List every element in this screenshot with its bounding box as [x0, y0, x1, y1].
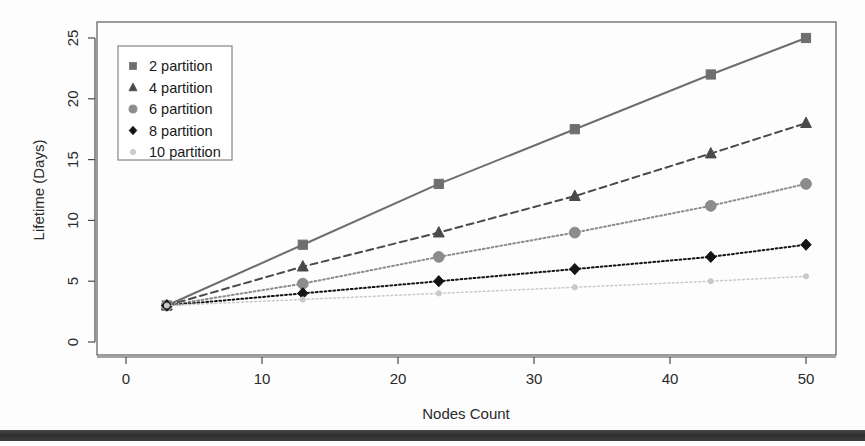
- x-tick-label: 10: [254, 370, 271, 387]
- data-marker-dot: [572, 285, 577, 290]
- x-tick-label: 30: [526, 370, 543, 387]
- legend-marker-dot: [130, 149, 135, 154]
- y-tick-label: 20: [64, 90, 81, 107]
- y-axis-title: Lifetime (Days): [30, 140, 47, 241]
- legend-marker-square: [130, 63, 137, 70]
- x-tick-label: 40: [662, 370, 679, 387]
- y-tick-label: 0: [64, 338, 81, 346]
- lifetime-vs-nodes-chart: 01020304050 0510152025 Nodes Count Lifet…: [0, 0, 865, 446]
- y-tick-label: 25: [64, 30, 81, 47]
- x-tick-label: 50: [798, 370, 815, 387]
- x-tick-label: 20: [390, 370, 407, 387]
- data-marker-square: [570, 125, 579, 134]
- chart-legend[interactable]: 2 partition4 partition6 partition8 parti…: [118, 46, 232, 160]
- data-marker-square: [801, 33, 810, 42]
- legend-item-label: 4 partition: [149, 80, 213, 96]
- data-marker-square: [706, 70, 715, 79]
- y-tick-label: 15: [64, 151, 81, 168]
- data-marker-circle: [705, 200, 716, 211]
- data-marker-square: [298, 240, 307, 249]
- legend-item-label: 10 partition: [149, 144, 221, 160]
- legend-item-label: 8 partition: [149, 123, 213, 139]
- y-tick-label: 5: [64, 277, 81, 285]
- data-marker-circle: [433, 251, 444, 262]
- data-marker-dot: [436, 291, 441, 296]
- y-tick-label: 10: [64, 212, 81, 229]
- legend-item-label: 2 partition: [149, 58, 213, 74]
- scan-artifact-bar: [0, 430, 865, 441]
- data-marker-dot: [803, 274, 808, 279]
- x-tick-label: 0: [122, 370, 130, 387]
- data-marker-dot: [708, 279, 713, 284]
- data-marker-dot: [300, 297, 305, 302]
- data-marker-circle: [801, 179, 812, 190]
- data-marker-circle: [569, 227, 580, 238]
- legend-marker-circle: [129, 105, 137, 113]
- data-marker-dot: [164, 303, 169, 308]
- legend-item-label: 6 partition: [149, 101, 213, 117]
- data-marker-square: [434, 179, 443, 188]
- x-axis-title: Nodes Count: [422, 405, 510, 422]
- chart-figure: 01020304050 0510152025 Nodes Count Lifet…: [0, 0, 865, 446]
